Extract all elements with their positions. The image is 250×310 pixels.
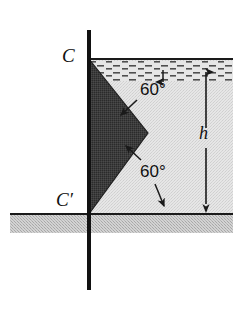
water-surface-hatch bbox=[91, 61, 233, 81]
label-point-c-prime: C′ bbox=[56, 190, 73, 209]
label-depth-h: h bbox=[199, 124, 208, 142]
figure-canvas: C C′ h 60° 60° bbox=[0, 0, 250, 310]
label-point-c: C bbox=[62, 46, 75, 65]
label-angle-lower: 60° bbox=[140, 163, 166, 180]
label-angle-upper: 60° bbox=[140, 81, 166, 98]
ground-band bbox=[10, 214, 233, 233]
diagram-svg bbox=[0, 0, 250, 310]
